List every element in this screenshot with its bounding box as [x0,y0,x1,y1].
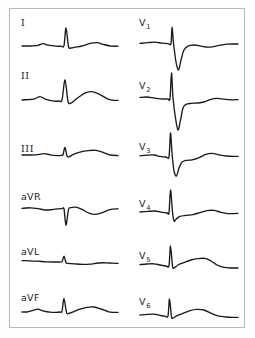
lead-label-avl: aVL [21,246,40,257]
lead-label-v5: V5 [139,250,151,264]
lead-label-v6: V6 [139,296,151,310]
ecg-label-group: IIIIIIaVRaVLaVFV1V2V3V4V5V6 [21,17,151,310]
ecg-figure: IIIIIIaVRaVLaVFV1V2V3V4V5V6 [0,0,255,338]
ecg-trace-i [22,28,118,48]
ecg-trace-iii [22,147,118,157]
lead-label-subscript: 6 [146,302,151,310]
lead-label-subscript: 1 [146,23,151,31]
ecg-trace-group [22,27,238,318]
lead-label-v1: V1 [139,17,151,31]
lead-label-subscript: 5 [146,256,151,264]
ecg-trace-avl [22,256,118,264]
ecg-trace-v5 [140,246,238,268]
lead-label-subscript: 3 [146,147,151,155]
lead-label-v3: V3 [139,141,151,155]
ecg-trace-v4 [140,190,238,221]
lead-label-avf: aVF [21,292,40,303]
ecg-trace-v6 [140,299,238,318]
ecg-trace-v1 [140,27,238,70]
lead-label-v2: V2 [139,80,151,94]
ecg-trace-v2 [140,73,238,130]
lead-label-v4: V4 [139,198,151,212]
lead-label-iii: III [21,143,34,154]
lead-label-avr: aVR [21,191,41,202]
lead-label-i: I [21,17,25,28]
lead-label-ii: II [21,70,30,81]
ecg-trace-avr [22,207,118,225]
ecg-trace-v3 [140,133,238,176]
ecg-trace-ii [22,80,118,104]
ecg-traces-canvas: IIIIIIaVRaVLaVFV1V2V3V4V5V6 [0,0,255,338]
lead-label-subscript: 4 [146,204,151,212]
lead-label-subscript: 2 [146,86,151,94]
